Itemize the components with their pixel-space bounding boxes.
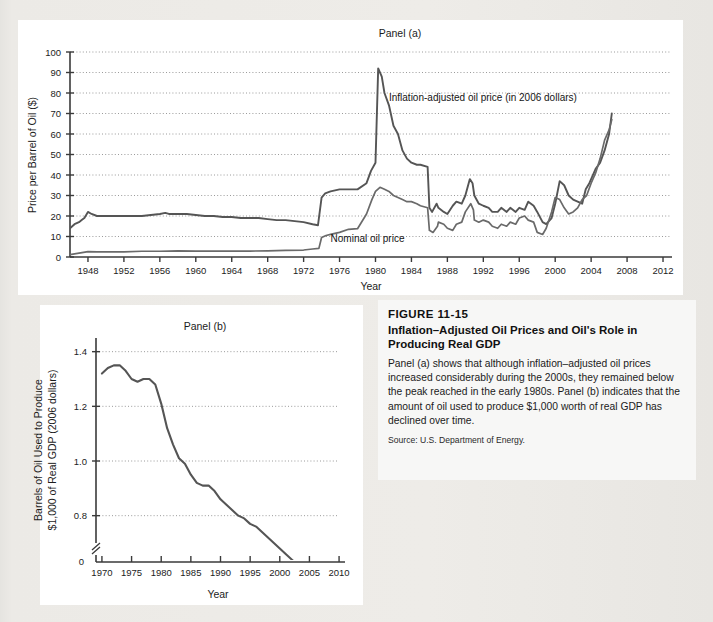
svg-text:1990: 1990 — [210, 567, 231, 578]
panel-b-y-axis-label-line2: $1,000 of Real GDP (2006 dollars) — [46, 370, 58, 531]
svg-text:0.8: 0.8 — [74, 510, 87, 521]
panel-a-title: Panel (a) — [379, 27, 422, 39]
panel-b-chart: Panel (b) 0 0.81.01.21.4 197019751980198… — [0, 300, 380, 620]
svg-text:2004: 2004 — [581, 265, 602, 276]
panel-b-gridlines — [96, 352, 339, 516]
nominal-oil-price-annotation: Nominal oil price — [331, 233, 405, 244]
svg-text:1.0: 1.0 — [74, 456, 87, 467]
svg-text:70: 70 — [50, 108, 61, 119]
panel-b-zero-label: 0 — [79, 556, 84, 567]
svg-text:1948: 1948 — [77, 265, 98, 276]
panel-a-chart: Panel (a) 0102030405060708090100 1948195… — [0, 0, 713, 300]
panel-a-y-axis-label: Price per Barrel of Oil ($) — [26, 97, 38, 213]
svg-text:2012: 2012 — [652, 265, 673, 276]
panel-a-gridlines — [70, 52, 670, 237]
panel-a-x-ticks: 1948195219561960196419681972197619801984… — [77, 257, 673, 276]
svg-text:1980: 1980 — [365, 265, 386, 276]
svg-text:100: 100 — [45, 47, 61, 58]
svg-text:2005: 2005 — [299, 567, 320, 578]
svg-text:1968: 1968 — [257, 265, 278, 276]
figure-number: FIGURE 11-15 — [388, 308, 682, 320]
figure-body-text: Panel (a) shows that although inflation–… — [388, 357, 682, 428]
svg-text:2008: 2008 — [617, 265, 638, 276]
svg-text:20: 20 — [50, 211, 61, 222]
svg-text:1952: 1952 — [113, 265, 134, 276]
svg-text:2000: 2000 — [545, 265, 566, 276]
svg-text:1988: 1988 — [437, 265, 458, 276]
svg-text:1964: 1964 — [221, 265, 242, 276]
svg-text:30: 30 — [50, 190, 61, 201]
svg-text:10: 10 — [50, 231, 61, 242]
svg-text:1985: 1985 — [180, 567, 201, 578]
svg-text:0: 0 — [56, 252, 61, 263]
inflation-adjusted-annotation: Inflation-adjusted oil price (in 2006 do… — [389, 92, 577, 103]
panel-b-y-axis-label-line1: Barrels of Oil Used to Produce — [32, 379, 44, 521]
panel-b-x-axis-label: Year — [207, 588, 229, 600]
svg-text:1972: 1972 — [293, 265, 314, 276]
svg-text:1992: 1992 — [473, 265, 494, 276]
figure-caption-container: FIGURE 11-15 Inflation–Adjusted Oil Pric… — [378, 300, 696, 480]
svg-text:1980: 1980 — [151, 567, 172, 578]
svg-text:50: 50 — [50, 149, 61, 160]
panel-b-x-ticks: 197019751980198519901995200020052010 — [91, 556, 349, 578]
svg-text:1976: 1976 — [329, 265, 350, 276]
svg-text:2010: 2010 — [329, 567, 350, 578]
svg-text:1956: 1956 — [149, 265, 170, 276]
panel-b-axis-break-icon — [92, 543, 100, 554]
svg-text:90: 90 — [50, 67, 61, 78]
svg-text:1960: 1960 — [185, 265, 206, 276]
svg-text:1995: 1995 — [240, 567, 261, 578]
svg-text:2000: 2000 — [269, 567, 290, 578]
svg-text:60: 60 — [50, 129, 61, 140]
svg-text:1996: 1996 — [509, 265, 530, 276]
panel-b-title: Panel (b) — [184, 320, 227, 332]
svg-text:1975: 1975 — [121, 567, 142, 578]
figure-title: Inflation–Adjusted Oil Prices and Oil's … — [388, 323, 682, 351]
figure-source: Source: U.S. Department of Energy. — [388, 435, 682, 445]
svg-text:1.4: 1.4 — [74, 346, 87, 357]
svg-text:80: 80 — [50, 88, 61, 99]
svg-text:1970: 1970 — [91, 567, 112, 578]
svg-text:1.2: 1.2 — [74, 401, 87, 412]
panel-a-x-axis-label: Year — [360, 280, 382, 292]
svg-text:40: 40 — [50, 170, 61, 181]
barrels-per-1000-gdp-line — [102, 365, 315, 578]
svg-text:1984: 1984 — [401, 265, 422, 276]
